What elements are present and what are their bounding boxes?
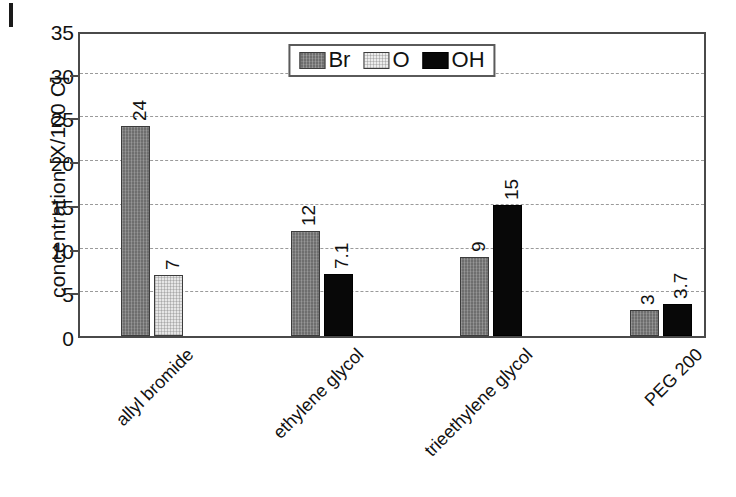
y-axis-tick-mark <box>70 206 78 208</box>
gridline <box>80 160 704 161</box>
legend-item-br[interactable]: Br <box>299 49 350 71</box>
bar-value-label: 7 <box>163 259 182 270</box>
y-axis-tick-mark <box>70 250 78 252</box>
bar-br-trieethylene-glycol[interactable]: 9 <box>460 257 489 336</box>
plot-area: 247127.191533.7 Br O OH <box>78 32 706 338</box>
bar-value-label: 7.1 <box>332 243 351 269</box>
gridline <box>80 248 704 249</box>
legend-item-oh[interactable]: OH <box>423 49 485 71</box>
legend-swatch-br-icon <box>299 52 325 69</box>
y-axis-tick-mark <box>70 293 78 295</box>
legend-label-br: Br <box>328 49 350 71</box>
gridline <box>80 204 704 205</box>
y-axis-tick-label: 25 <box>28 109 74 130</box>
bar-value-label: 3 <box>638 294 657 305</box>
bar-br-ethylene-glycol[interactable]: 12 <box>291 231 320 336</box>
y-axis-tick-label: 10 <box>28 240 74 261</box>
legend-swatch-oh-icon <box>423 52 449 69</box>
y-axis-tick-label: 30 <box>28 65 74 86</box>
bar-br-allyl-bromide[interactable]: 24 <box>121 126 150 336</box>
y-axis-tick-mark <box>70 118 78 120</box>
bar-value-label: 9 <box>469 242 488 253</box>
y-axis-tick-label: 35 <box>28 22 74 43</box>
y-axis-tick-mark <box>70 75 78 77</box>
bar-oh-trieethylene-glycol[interactable]: 15 <box>493 205 522 336</box>
gridline <box>80 116 704 117</box>
legend-item-o[interactable]: O <box>363 49 409 71</box>
bar-oh-peg-200[interactable]: 3.7 <box>663 304 692 336</box>
x-axis-label-allyl-bromide: allyl bromide <box>43 345 197 497</box>
y-axis-tick-label: 0 <box>28 328 74 349</box>
legend-label-o: O <box>392 49 409 71</box>
bar-value-label: 24 <box>130 100 149 121</box>
x-axis-label-trieethylene-glycol: trieethylene glycol <box>382 345 536 497</box>
bar-value-label: 3.7 <box>671 272 690 298</box>
page-edge-mark <box>9 3 13 27</box>
bar-value-label: 15 <box>502 179 521 200</box>
bar-o-allyl-bromide[interactable]: 7 <box>154 275 183 336</box>
bar-chart-figure: concentration [X/100 C] 05101520253035 2… <box>0 0 736 497</box>
bar-oh-ethylene-glycol[interactable]: 7.1 <box>324 274 353 336</box>
bar-value-label: 12 <box>299 205 318 226</box>
legend-swatch-o-icon <box>363 52 389 69</box>
bar-br-peg-200[interactable]: 3 <box>630 310 659 336</box>
y-axis-tick-label: 15 <box>28 196 74 217</box>
legend-label-oh: OH <box>452 49 485 71</box>
x-axis-label-peg-200: PEG 200 <box>551 345 705 497</box>
y-axis-tick-label: 20 <box>28 153 74 174</box>
y-axis-tick-mark <box>70 162 78 164</box>
legend[interactable]: Br O OH <box>288 44 495 77</box>
y-axis-tick-label: 5 <box>28 284 74 305</box>
plot-inner: 247127.191533.7 Br O OH <box>80 34 704 336</box>
x-axis-label-ethylene-glycol: ethylene glycol <box>212 345 366 497</box>
